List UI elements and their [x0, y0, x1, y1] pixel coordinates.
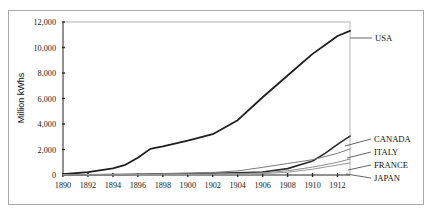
x-tick-label-1908: 1908	[279, 181, 295, 190]
x-tick-label-1892: 1892	[80, 181, 96, 190]
plot-area	[63, 22, 350, 175]
series-label-italy: ITALY	[374, 147, 398, 157]
x-axis-tick-labels: 1890189218941896189819001902190419061908…	[55, 181, 346, 190]
series-label-japan: JAPAN	[374, 173, 401, 183]
y-tick-label-8000: 8,000	[38, 69, 56, 78]
y-axis-tick-labels: 02,0004,0006,0008,00010,00012,000	[33, 18, 56, 180]
line-chart: 02,0004,0006,0008,00010,00012,000 Millio…	[0, 0, 433, 215]
x-tick-label-1890: 1890	[55, 181, 71, 190]
x-axis: 1890189218941896189819001902190419061908…	[55, 173, 350, 190]
series-line-italy	[63, 149, 350, 175]
y-tick-label-4000: 4,000	[38, 120, 56, 129]
chart-figure: 02,0004,0006,0008,00010,00012,000 Millio…	[0, 0, 433, 215]
leader-line-canada	[345, 139, 371, 146]
leader-line-france	[348, 165, 371, 170]
y-axis-title: Million kWhs	[16, 72, 26, 123]
x-tick-label-1910: 1910	[304, 181, 320, 190]
x-tick-label-1894: 1894	[105, 181, 121, 190]
plot-area-border	[63, 22, 350, 175]
x-tick-label-1896: 1896	[130, 181, 146, 190]
series-line-usa	[63, 31, 350, 174]
leader-line-japan	[346, 174, 371, 178]
y-tick-label-2000: 2,000	[38, 146, 56, 155]
y-tick-label-12000: 12,000	[33, 18, 56, 27]
y-axis: 02,0004,0006,0008,00010,00012,000 Millio…	[16, 18, 65, 180]
x-tick-label-1902: 1902	[205, 181, 221, 190]
series-label-usa: USA	[375, 33, 393, 43]
y-tick-label-6000: 6,000	[38, 95, 56, 104]
y-tick-label-10000: 10,000	[33, 44, 56, 53]
data-series-group	[63, 31, 350, 175]
series-labels: USA CANADA ITALY FRANCE JAPAN	[374, 33, 412, 183]
x-tick-label-1904: 1904	[230, 181, 246, 190]
y-tick-label-0: 0	[52, 171, 56, 180]
series-label-france: FRANCE	[374, 160, 408, 170]
series-leader-lines	[345, 38, 372, 178]
leader-line-italy	[347, 152, 371, 158]
x-tick-label-1898: 1898	[155, 181, 171, 190]
x-tick-label-1900: 1900	[180, 181, 196, 190]
x-tick-label-1912: 1912	[329, 181, 345, 190]
x-tick-label-1906: 1906	[254, 181, 270, 190]
series-label-canada: CANADA	[374, 134, 412, 144]
